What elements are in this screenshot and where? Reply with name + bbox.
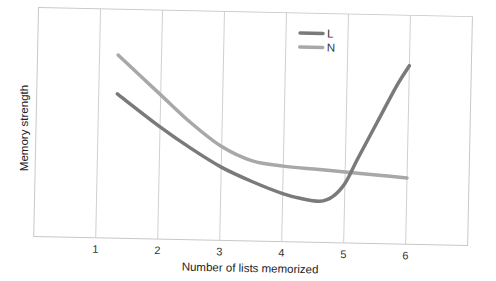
legend-label-n: N xyxy=(327,42,336,54)
x-tick-label: 4 xyxy=(278,247,284,259)
memory-strength-chart: L N 123456 Number of lists memorized Mem… xyxy=(0,0,496,281)
y-axis-label: Memory strength xyxy=(18,85,30,171)
x-tick-label: 5 xyxy=(340,248,346,260)
x-tick-label: 2 xyxy=(154,244,160,256)
gridline xyxy=(220,11,225,240)
x-tick-label: 6 xyxy=(402,249,408,261)
legend-label-l: L xyxy=(327,28,334,40)
x-axis-ticks: 123456 xyxy=(92,243,408,262)
gridline xyxy=(96,9,101,238)
gridline xyxy=(344,14,349,243)
gridline xyxy=(406,15,411,244)
plot-area: L N 123456 Number of lists memorized xyxy=(33,8,472,279)
gridline xyxy=(282,13,287,242)
x-tick-label: 1 xyxy=(92,243,98,255)
vertical-gridlines xyxy=(96,9,411,244)
legend: L N xyxy=(300,27,336,54)
x-axis-label: Number of lists memorized xyxy=(182,261,319,276)
x-tick-label: 3 xyxy=(216,245,222,257)
